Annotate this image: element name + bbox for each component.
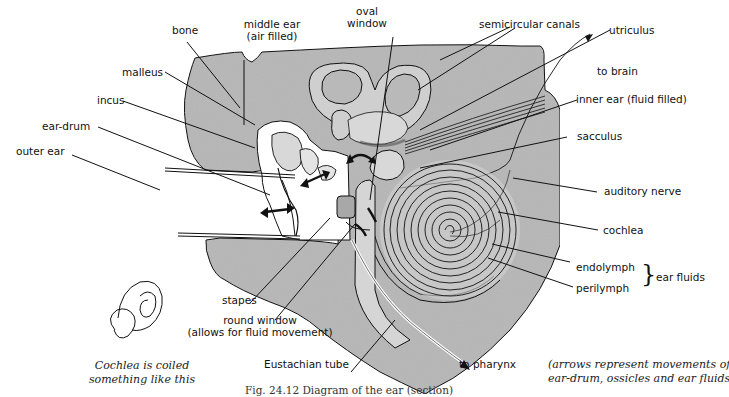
label-cochlea: cochlea: [603, 224, 643, 236]
label-middle-ear: middle ear (air filled): [242, 18, 302, 42]
figure-caption: Fig. 24.12 Diagram of the ear (section): [245, 384, 453, 396]
label-perilymph: perilymph: [576, 282, 629, 294]
label-stapes: stapes: [222, 294, 257, 306]
ear-diagram: bone middle ear (air filled) oval window…: [0, 0, 729, 397]
note-arrows-line2: ear-drum, ossicles and ear fluids): [548, 372, 726, 386]
label-oval-window: oval window: [344, 5, 390, 29]
label-oval-window-line2: window: [344, 17, 390, 29]
label-bone: bone: [172, 24, 198, 36]
note-cochlea: Cochlea is coiled something like this: [86, 359, 198, 387]
ear-section-illustration: [0, 0, 729, 397]
label-utriculus: utriculus: [609, 24, 654, 36]
note-arrows-line1: (arrows represent movements of: [548, 358, 726, 372]
label-ear-drum: ear-drum: [42, 120, 90, 132]
label-auditory-nerve: auditory nerve: [604, 185, 681, 197]
note-cochlea-line1: Cochlea is coiled: [86, 359, 198, 373]
label-incus: incus: [97, 94, 124, 106]
cochlea-sketch-icon: [110, 281, 162, 338]
label-outer-ear: outer ear: [16, 145, 65, 157]
label-to-brain: to brain: [597, 65, 638, 77]
label-middle-ear-line1: middle ear: [242, 18, 302, 30]
note-arrows: (arrows represent movements of ear-drum,…: [548, 358, 726, 386]
label-ear-fluids: ear fluids: [656, 271, 705, 283]
label-round-window-line2: (allows for fluid movement): [180, 326, 340, 338]
label-inner-ear: inner ear (fluid filled): [576, 93, 687, 105]
oval-window-plate: [337, 196, 355, 218]
label-to-pharynx: to pharynx: [459, 358, 516, 370]
label-round-window-line1: round window: [180, 314, 340, 326]
label-sacculus: sacculus: [577, 130, 622, 142]
label-semicircular-canals: semicircular canals: [479, 18, 580, 30]
note-cochlea-line2: something like this: [86, 373, 198, 387]
label-endolymph: endolymph: [576, 261, 635, 273]
label-middle-ear-line2: (air filled): [242, 30, 302, 42]
brace-icon: }: [641, 262, 656, 286]
label-eustachian-tube: Eustachian tube: [264, 358, 349, 370]
label-oval-window-line1: oval: [344, 5, 390, 17]
label-malleus: malleus: [122, 66, 163, 78]
label-round-window: round window (allows for fluid movement): [180, 314, 340, 338]
